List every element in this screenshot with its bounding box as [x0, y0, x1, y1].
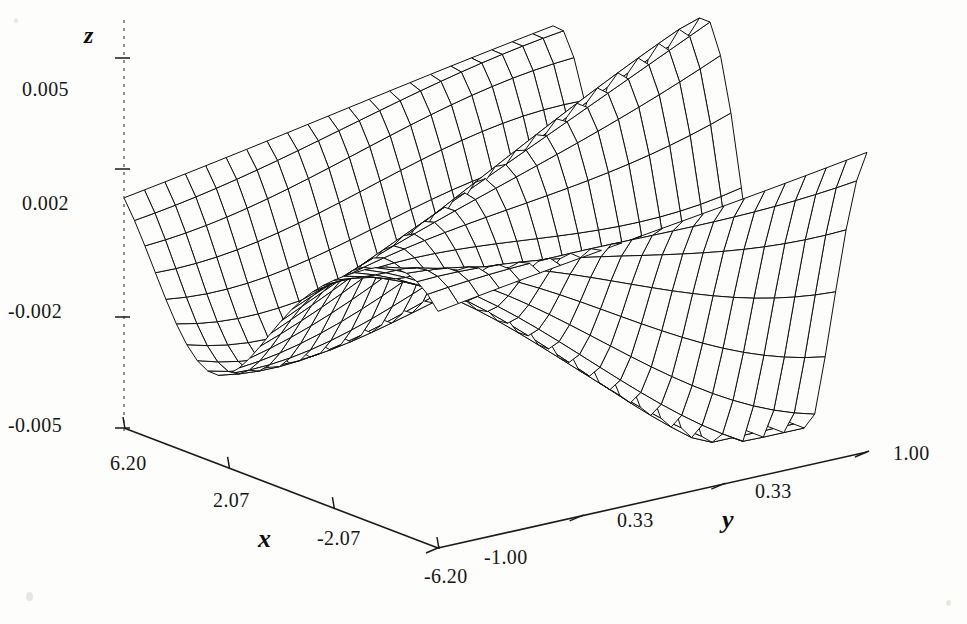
y-tick-0	[426, 547, 440, 553]
z-tick-label-1: 0.002	[22, 192, 69, 215]
z-tick-label-2: -0.002	[8, 300, 62, 323]
figure-canvas: z 0.005 0.002 -0.002 -0.005 x 6.20 2.07 …	[0, 0, 967, 624]
x-axis-label: x	[258, 524, 271, 554]
surface-mesh	[124, 18, 867, 442]
surface-plot-svg	[0, 0, 967, 624]
x-tick-label-2: -2.07	[317, 527, 361, 550]
y-tick-label-2: 0.33	[755, 480, 792, 503]
x-tick-label-3: -6.20	[424, 565, 468, 588]
y-tick-label-0: -1.00	[484, 546, 528, 569]
x-tick-label-0: 6.20	[110, 452, 147, 475]
x-tick-label-1: 2.07	[213, 489, 250, 512]
z-tick-label-0: 0.005	[22, 78, 69, 101]
y-tick-label-3: 1.00	[893, 442, 930, 465]
z-tick-label-3: -0.005	[8, 414, 62, 437]
x-tick-0	[123, 417, 125, 429]
z-axis-label: z	[84, 22, 93, 49]
y-axis-label: y	[722, 505, 734, 535]
y-tick-label-1: 0.33	[617, 509, 654, 532]
x-axis-line	[124, 428, 438, 548]
y-axis-line	[438, 452, 867, 548]
